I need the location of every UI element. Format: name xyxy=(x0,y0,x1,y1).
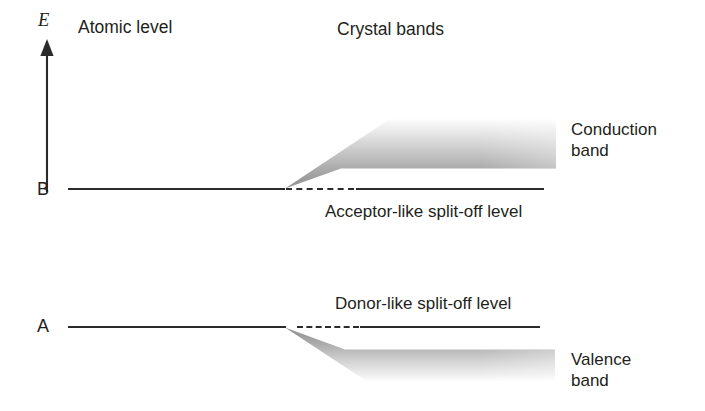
label-valence-band-line1: Valence xyxy=(571,350,631,370)
energy-axis-icon xyxy=(36,38,62,194)
level-B-atomic-line xyxy=(68,188,285,190)
donor-split-off-solid-line xyxy=(360,326,540,328)
acceptor-split-off-dashed-line xyxy=(286,188,354,190)
label-conduction-band-line1: Conduction xyxy=(571,120,657,140)
conduction-band-wedge xyxy=(285,118,556,189)
axis-label-energy: E xyxy=(38,10,49,31)
label-valence-band-line2: band xyxy=(571,371,609,391)
header-atomic-level: Atomic level xyxy=(78,17,172,37)
caption-donor-split-off-level: Donor-like split-off level xyxy=(335,294,511,314)
header-crystal-bands: Crystal bands xyxy=(337,19,444,39)
caption-acceptor-split-off-level: Acceptor-like split-off level xyxy=(325,202,522,222)
level-A-atomic-line xyxy=(68,326,286,328)
label-conduction-band-line2: band xyxy=(571,141,609,161)
level-label-A: A xyxy=(37,316,49,337)
acceptor-split-off-solid-line xyxy=(356,188,544,190)
valence-band-wedge xyxy=(285,328,555,382)
band-diagram-figure: Atomic level Crystal bands E xyxy=(0,0,705,411)
energy-axis-arrow xyxy=(36,38,62,194)
donor-split-off-dashed-line xyxy=(297,326,359,328)
level-label-B: B xyxy=(37,179,49,200)
